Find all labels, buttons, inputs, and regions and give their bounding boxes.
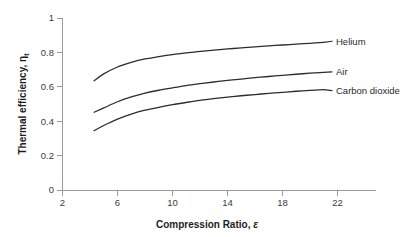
thermal-efficiency-chart: 00.20.40.60.81 2610141822 HeliumAirCarbo… (0, 0, 402, 237)
y-axis: 00.20.40.60.81 (41, 12, 63, 195)
y-tick-group: 00.20.40.60.81 (41, 12, 63, 195)
x-tick-label: 22 (332, 197, 343, 208)
y-tick-label: 0.2 (41, 150, 54, 161)
series-label-group: HeliumAirCarbon dioxide (324, 36, 400, 96)
series-leader-line (324, 41, 332, 42)
series-leader-line (324, 90, 332, 91)
x-tick-group: 2610141822 (60, 191, 343, 209)
y-tick-label: 1 (49, 12, 54, 23)
chart-canvas: 00.20.40.60.81 2610141822 HeliumAirCarbo… (0, 0, 402, 237)
x-tick-label: 6 (115, 197, 120, 208)
series-curve-carbon-dioxide (94, 90, 324, 131)
y-tick-label: 0.8 (41, 47, 54, 58)
series-label-carbon-dioxide: Carbon dioxide (336, 85, 400, 96)
y-axis-title: Thermal efficiency, ηt (17, 53, 31, 155)
y-tick-label: 0.6 (41, 81, 54, 92)
x-tick-label: 18 (277, 197, 288, 208)
y-tick-label: 0.4 (41, 116, 54, 127)
x-tick-label: 14 (222, 197, 233, 208)
series-label-air: Air (336, 66, 348, 77)
x-axis-title: Compression Ratio, ε (156, 219, 258, 230)
x-axis: 2610141822 (60, 191, 376, 209)
series-curves (94, 42, 324, 130)
y-tick-label: 0 (49, 184, 54, 195)
series-leader-line (324, 72, 332, 73)
x-tick-label: 10 (167, 197, 178, 208)
x-tick-label: 2 (60, 197, 65, 208)
series-label-helium: Helium (336, 36, 366, 47)
